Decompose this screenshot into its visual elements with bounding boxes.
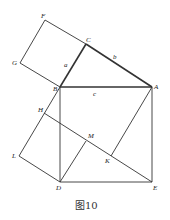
label-side-c: c bbox=[93, 90, 97, 98]
square-bc bbox=[20, 20, 86, 87]
square-c bbox=[60, 87, 152, 182]
figure-caption: 图10 bbox=[75, 200, 98, 211]
side-b bbox=[86, 44, 152, 87]
pythagorean-diagram: F C G B A H M L K D E a b c 图10 bbox=[0, 0, 170, 220]
line-d-m bbox=[60, 141, 86, 182]
label-h: H bbox=[37, 106, 44, 114]
label-c: C bbox=[86, 36, 91, 44]
label-l: L bbox=[11, 152, 16, 160]
label-g: G bbox=[12, 59, 17, 67]
label-f: F bbox=[40, 12, 46, 20]
label-k: K bbox=[104, 157, 110, 165]
label-m: M bbox=[87, 132, 95, 140]
label-side-b: b bbox=[113, 53, 117, 61]
label-side-a: a bbox=[64, 61, 68, 69]
line-b-h bbox=[19, 87, 60, 156]
line-a-k bbox=[111, 87, 152, 156]
label-b: B bbox=[53, 85, 58, 93]
label-a: A bbox=[153, 83, 159, 91]
label-d: D bbox=[55, 184, 61, 192]
label-e: E bbox=[152, 184, 158, 192]
line-l-d bbox=[19, 156, 60, 182]
